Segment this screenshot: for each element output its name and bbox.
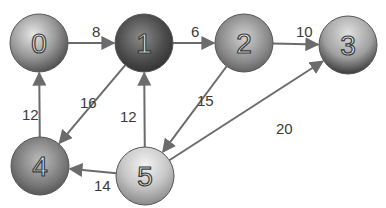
node-label: 0 [31,28,47,59]
node-4: 4 [11,137,69,195]
edge-5-to-4 [70,169,116,173]
edge-weight-label: 12 [22,106,39,123]
edge-5-to-1 [144,73,145,147]
edge-weight-label: 8 [92,23,100,40]
edge-4-to-0 [39,73,40,137]
node-label: 1 [136,28,152,59]
node-label: 2 [236,28,252,59]
edge-weight-label: 14 [94,177,111,194]
node-label: 3 [340,30,356,61]
node-5: 5 [116,147,174,205]
edge-2-to-3 [273,44,318,45]
node-label: 5 [137,161,153,192]
node-3: 3 [319,16,377,74]
graph-diagram: 8610121612152014 012345 [0,0,386,208]
node-1: 1 [115,14,173,72]
edge-weight-label: 20 [276,120,293,137]
edge-weight-label: 16 [80,94,97,111]
node-label: 4 [32,151,48,182]
edge-weight-label: 12 [120,108,137,125]
edge-weight-label: 10 [296,23,313,40]
edge-weight-label: 15 [197,92,214,109]
node-0: 0 [10,14,68,72]
edge-2-to-5 [163,66,227,152]
edge-weight-label: 6 [191,23,199,40]
node-2: 2 [215,14,273,72]
